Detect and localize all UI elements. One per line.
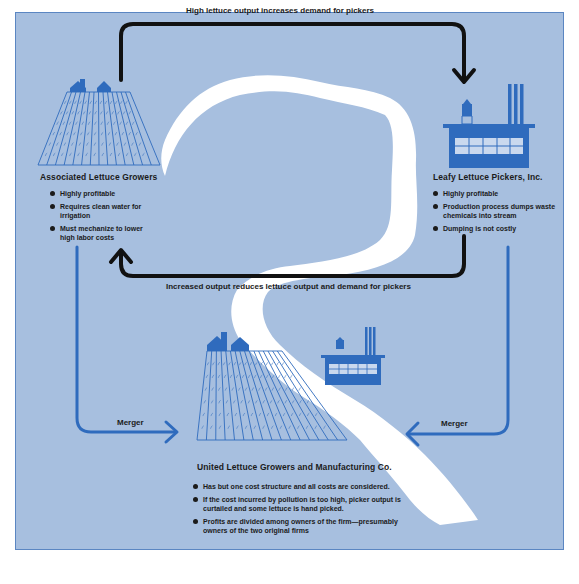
lettuce-mark [69, 122, 71, 125]
lettuce-mark [129, 111, 131, 114]
farm-field-icon [38, 79, 160, 165]
lettuce-mark [219, 426, 221, 429]
lettuce-mark [255, 362, 257, 365]
lettuce-mark [63, 122, 65, 125]
lettuce-mark [212, 375, 214, 378]
lettuce-mark [235, 413, 237, 416]
lettuce-mark [86, 153, 88, 156]
united-factory-icon [321, 327, 385, 385]
lettuce-mark [110, 153, 112, 156]
lettuce-mark [60, 132, 62, 135]
lettuce-mark [239, 362, 241, 365]
lettuce-mark [218, 375, 220, 378]
lettuce-mark [324, 426, 326, 429]
lettuce-mark [213, 362, 215, 365]
bottom-arrow-label: Increased output reduces lettuce output … [166, 282, 411, 291]
united-bullets: Has but one cost structure and all costs… [192, 482, 417, 539]
crop-row [47, 92, 72, 165]
lettuce-mark [49, 143, 51, 146]
lettuce-mark [72, 111, 74, 114]
lettuce-mark [129, 132, 131, 135]
crop-row [112, 92, 125, 165]
lettuce-mark [108, 132, 110, 135]
crop-row [90, 92, 94, 165]
lettuce-mark [233, 400, 235, 403]
lettuce-mark [106, 111, 108, 114]
lettuce-mark [80, 101, 82, 104]
lettuce-mark [94, 143, 96, 146]
lettuce-mark [143, 153, 145, 156]
lettuce-mark [203, 413, 205, 416]
united-bullet: Profits are divided among owners of the … [192, 517, 417, 535]
lettuce-mark [123, 111, 125, 114]
lettuce-mark [118, 111, 120, 114]
lettuce-mark [306, 426, 308, 429]
lettuce-mark [102, 153, 104, 156]
lettuce-mark [267, 413, 269, 416]
lettuce-mark [87, 143, 89, 146]
lettuce-mark [115, 101, 117, 104]
lettuce-mark [283, 413, 285, 416]
lettuce-mark [88, 122, 90, 125]
lettuce-mark [289, 426, 291, 429]
lettuce-mark [132, 122, 134, 125]
crop-row [216, 351, 217, 440]
lettuce-mark [89, 111, 91, 114]
lettuce-mark [265, 388, 267, 391]
lettuce-mark [270, 400, 272, 403]
lettuce-mark [228, 426, 230, 429]
lettuce-mark [126, 101, 128, 104]
lettuce-mark [315, 426, 317, 429]
united-bullet: Has but one cost structure and all costs… [192, 482, 417, 491]
lettuce-mark [76, 122, 78, 125]
lettuce-mark [229, 362, 231, 365]
growers-bullet: Requires clean water for irrigation [49, 202, 159, 220]
lettuce-mark [207, 362, 209, 365]
lettuce-mark [95, 111, 97, 114]
lettuce-mark [280, 426, 282, 429]
lettuce-mark [121, 101, 123, 104]
lettuce-mark [78, 153, 80, 156]
united-bullet: If the cost incurred by pollution is too… [192, 495, 417, 513]
lettuce-mark [239, 388, 241, 391]
lettuce-mark [285, 388, 287, 391]
lettuce-mark [251, 413, 253, 416]
lettuce-mark [57, 143, 59, 146]
growers-bullet: Highly profitable [49, 189, 159, 198]
lettuce-mark [202, 426, 204, 429]
lettuce-mark [139, 143, 141, 146]
lettuce-mark [292, 400, 294, 403]
lettuce-mark [57, 122, 59, 125]
lettuce-mark [256, 400, 258, 403]
lettuce-mark [227, 413, 229, 416]
lettuce-mark [218, 388, 220, 391]
lettuce-mark [266, 375, 268, 378]
lettuce-mark [291, 413, 293, 416]
lettuce-mark [212, 388, 214, 391]
lettuce-mark [136, 132, 138, 135]
lettuce-mark [101, 122, 103, 125]
lettuce-mark [259, 388, 261, 391]
lettuce-mark [112, 111, 114, 114]
lettuce-mark [90, 101, 92, 104]
lettuce-mark [226, 400, 228, 403]
lettuce-mark [100, 111, 102, 114]
lettuce-mark [132, 143, 134, 146]
lettuce-mark [299, 413, 301, 416]
lettuce-mark [259, 413, 261, 416]
lettuce-mark [81, 132, 83, 135]
lettuce-mark [61, 153, 63, 156]
merger-left-label: Merger [117, 418, 144, 427]
crop-row [55, 92, 76, 165]
lettuce-mark [252, 388, 254, 391]
lettuce-mark [110, 101, 112, 104]
lettuce-mark [315, 413, 317, 416]
lettuce-mark [263, 400, 265, 403]
lettuce-mark [211, 413, 213, 416]
lettuce-mark [242, 375, 244, 378]
lettuce-mark [67, 132, 69, 135]
lettuce-mark [95, 101, 97, 104]
lettuce-mark [70, 153, 72, 156]
lettuce-mark [234, 362, 236, 365]
river [161, 75, 478, 525]
